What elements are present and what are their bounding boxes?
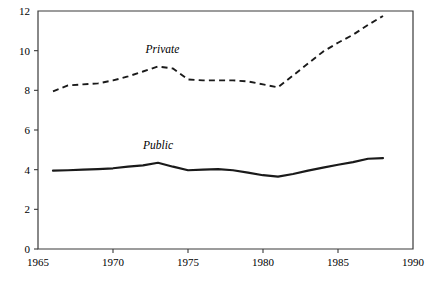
y-tick-label: 6 <box>25 124 31 136</box>
y-tick-label: 2 <box>25 203 31 215</box>
x-tick-label: 1985 <box>327 256 350 268</box>
y-tick-label: 10 <box>19 45 31 57</box>
chart-background <box>0 0 433 281</box>
chart-container: 024681012 196519701975198019851990 Priva… <box>0 0 433 281</box>
series-label-public: Public <box>142 139 173 151</box>
y-tick-label: 8 <box>25 84 31 96</box>
x-tick-label: 1965 <box>27 256 50 268</box>
y-tick-label: 4 <box>25 164 31 176</box>
x-tick-label: 1990 <box>402 256 425 268</box>
series-label-private: Private <box>145 43 180 55</box>
x-tick-label: 1975 <box>177 256 200 268</box>
y-tick-label: 0 <box>25 243 31 255</box>
x-tick-label: 1970 <box>102 256 125 268</box>
x-tick-label: 1980 <box>252 256 275 268</box>
line-chart: 024681012 196519701975198019851990 Priva… <box>0 0 433 281</box>
y-tick-label: 12 <box>19 5 30 17</box>
